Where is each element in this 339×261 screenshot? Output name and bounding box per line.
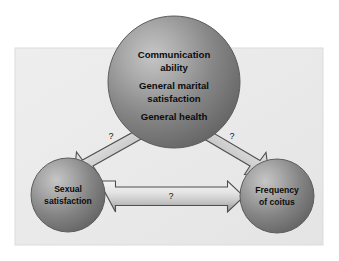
sexual-satisfaction-node-circle: [31, 158, 105, 232]
sexual-satisfaction-node-line-1: Sexual: [54, 184, 82, 194]
sexual-satisfaction-node: Sexual satisfaction: [31, 158, 105, 232]
predictors-node: Communication ability General marital sa…: [108, 16, 240, 148]
frequency-of-coitus-node-circle: [240, 159, 314, 233]
predictors-node-line-3: General marital: [139, 80, 209, 91]
edge-label-top-right: ?: [229, 131, 234, 141]
predictors-node-line-4: satisfaction: [147, 93, 200, 104]
frequency-of-coitus-node: Frequency of coitus: [240, 159, 314, 233]
sexual-satisfaction-node-line-2: satisfaction: [44, 196, 92, 206]
predictors-node-line-5: General health: [141, 111, 208, 122]
predictors-node-line-2: ability: [160, 62, 188, 73]
edge-label-bottom: ?: [168, 191, 173, 201]
frequency-of-coitus-node-line-2: of coitus: [259, 197, 295, 207]
diagram-canvas: ? ? ? Communication ability General mari…: [0, 0, 339, 261]
frequency-of-coitus-node-line-1: Frequency: [255, 185, 299, 195]
edge-label-top-left: ?: [108, 131, 113, 141]
relationship-diagram: ? ? ? Communication ability General mari…: [0, 0, 339, 261]
predictors-node-line-1: Communication: [138, 49, 211, 60]
